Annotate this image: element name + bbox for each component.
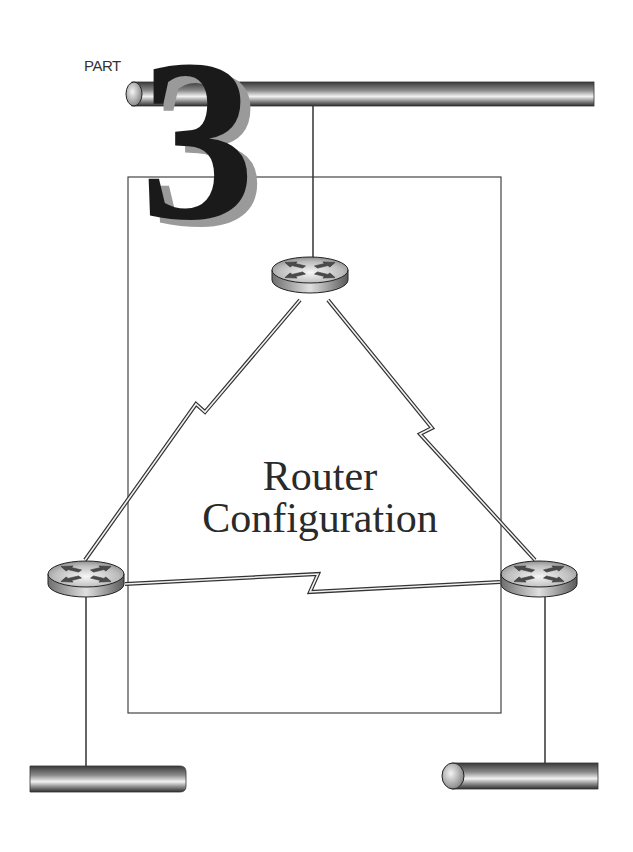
router-icon xyxy=(272,257,348,293)
title-line-1: Router xyxy=(180,452,460,500)
part-opener-diagram: 3 3 xyxy=(0,0,633,852)
router-icon xyxy=(501,561,577,597)
wan-link-left-right xyxy=(125,574,500,592)
bottom-left-segment xyxy=(30,766,186,792)
part-numeral: 3 3 xyxy=(140,13,265,275)
title-line-2: Configuration xyxy=(180,494,460,542)
part-label: PART xyxy=(84,57,121,74)
router-left[interactable] xyxy=(48,561,124,597)
bottom-right-segment xyxy=(442,763,598,789)
router-icon xyxy=(48,561,124,597)
part-numeral-3: 3 xyxy=(140,13,255,268)
router-top[interactable] xyxy=(272,257,348,293)
router-right[interactable] xyxy=(501,561,577,597)
